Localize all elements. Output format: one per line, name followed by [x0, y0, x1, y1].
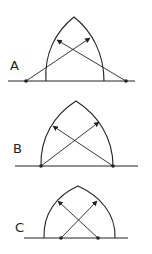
point-c-left	[59, 236, 63, 240]
point-b-right	[111, 164, 115, 168]
diagram-label-c: C	[15, 220, 24, 235]
point-b-left	[39, 164, 43, 168]
arrow-b-2	[53, 126, 113, 166]
pointed-arch-a	[46, 17, 104, 81]
arrow-a-2	[57, 40, 126, 81]
pointed-arch-b	[41, 101, 113, 166]
point-a-left	[24, 79, 28, 83]
arch-diagrams: A B C	[0, 0, 152, 254]
diagram-label-b: B	[13, 141, 22, 156]
diagram-c: C	[15, 186, 128, 240]
arrow-a-1	[26, 38, 90, 81]
pointed-arch-c	[44, 186, 115, 238]
diagram-label-a: A	[10, 58, 19, 73]
diagram-b: B	[13, 101, 138, 168]
diagram-a: A	[8, 17, 135, 83]
point-c-right	[96, 236, 100, 240]
point-a-right	[124, 79, 128, 83]
